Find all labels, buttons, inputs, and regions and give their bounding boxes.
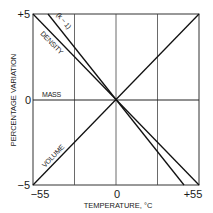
x-tick-zero: 0 [114,188,120,200]
mass-label: MASS [42,91,62,98]
x-tick-left: −55 [31,188,50,200]
y-tick-zero: 0 [25,94,31,106]
y-axis-label: PERCENTAGE VARIATION [9,54,18,147]
y-tick-top: +5 [17,8,30,20]
x-tick-right: +55 [184,188,203,200]
y-tick-bottom: −5 [17,179,30,191]
chart: +5 0 −5 −55 0 +55 TEMPERATURE, °C PERCEN… [0,0,213,213]
x-axis-label: TEMPERATURE, °C [84,201,153,210]
